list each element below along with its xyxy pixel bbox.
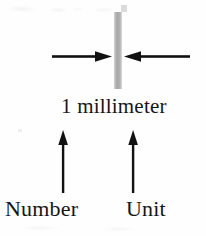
measurement-label: 1 millimeter	[61, 96, 167, 117]
unit-callout-arrow	[128, 130, 138, 193]
width-arrow-right	[124, 51, 190, 62]
unit-label: Unit	[126, 198, 166, 220]
scanned-diagram: 1 millimeter Number Unit	[0, 0, 206, 236]
number-label: Number	[5, 198, 78, 220]
width-arrow-left	[52, 51, 112, 62]
scan-fleck	[121, 5, 127, 12]
millimeter-width-bar	[114, 12, 122, 89]
scan-fleck	[18, 129, 22, 132]
scan-noise-bottom	[0, 220, 206, 236]
number-callout-arrow	[58, 130, 68, 193]
scan-noise-top	[0, 0, 206, 14]
